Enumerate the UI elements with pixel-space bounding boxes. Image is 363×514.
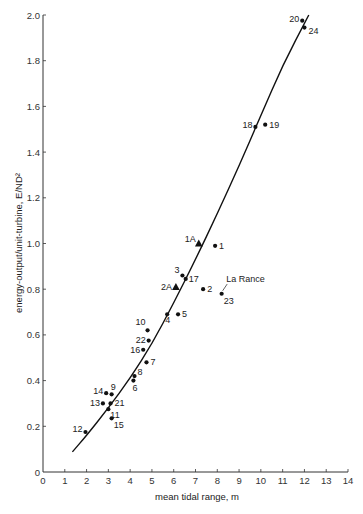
point-label: 19 bbox=[269, 120, 279, 130]
circle-marker-icon bbox=[132, 374, 136, 378]
circle-marker-icon bbox=[184, 277, 188, 281]
point-label: 4 bbox=[165, 315, 170, 325]
point-label: 18 bbox=[242, 120, 252, 130]
y-tick-label: 2.0 bbox=[27, 10, 40, 21]
circle-marker-icon bbox=[180, 273, 184, 277]
point-label: 6 bbox=[132, 383, 137, 393]
point-label: 17 bbox=[189, 274, 199, 284]
point-label: 16 bbox=[130, 345, 140, 355]
data-point-21: 21 bbox=[108, 398, 124, 408]
circle-marker-icon bbox=[145, 328, 149, 332]
circle-marker-icon bbox=[104, 391, 108, 395]
point-label: 5 bbox=[182, 309, 187, 319]
data-point-22: 22 bbox=[136, 335, 151, 345]
data-point-17: 17 bbox=[184, 274, 199, 284]
circle-marker-icon bbox=[144, 360, 148, 364]
annotations: La Rance bbox=[223, 274, 265, 291]
x-tick-label: 2 bbox=[84, 475, 89, 486]
point-label: 13 bbox=[90, 398, 100, 408]
x-tick-label: 8 bbox=[215, 475, 220, 486]
data-point-1: 1 bbox=[213, 241, 224, 251]
data-point-24: 24 bbox=[302, 25, 318, 35]
point-label: 22 bbox=[136, 335, 146, 345]
data-point-19: 19 bbox=[263, 120, 279, 130]
point-label: 2 bbox=[207, 284, 212, 294]
point-label: 24 bbox=[308, 26, 318, 36]
data-point-23: 23 bbox=[220, 292, 234, 306]
triangle-marker-icon bbox=[195, 240, 203, 247]
point-label: 21 bbox=[115, 398, 125, 408]
circle-marker-icon bbox=[263, 123, 267, 127]
circle-marker-icon bbox=[141, 348, 145, 352]
annotation-leader-line bbox=[223, 284, 228, 291]
data-point-12: 12 bbox=[72, 424, 87, 434]
x-tick-label: 0 bbox=[40, 475, 45, 486]
data-point-10: 10 bbox=[136, 317, 150, 332]
x-tick-label: 6 bbox=[171, 475, 176, 486]
circle-marker-icon bbox=[110, 392, 114, 396]
point-label: 3 bbox=[174, 265, 179, 275]
point-label: 7 bbox=[150, 357, 155, 367]
x-tick-label: 4 bbox=[127, 475, 132, 486]
data-point-20: 20 bbox=[289, 14, 304, 24]
point-label: 1A bbox=[185, 234, 196, 244]
data-point-2a: 2A bbox=[161, 282, 180, 292]
point-label: 23 bbox=[224, 296, 234, 306]
x-tick-label: 5 bbox=[149, 475, 154, 486]
point-label: 20 bbox=[289, 14, 299, 24]
triangle-marker-icon bbox=[172, 283, 180, 290]
data-point-4: 4 bbox=[165, 312, 170, 325]
point-label: 1 bbox=[219, 241, 224, 251]
x-tick-label: 3 bbox=[106, 475, 111, 486]
x-tick-label: 1 bbox=[62, 475, 67, 486]
annotation-label: La Rance bbox=[226, 274, 265, 284]
data-point-2: 2 bbox=[201, 284, 212, 294]
data-point-1a: 1A bbox=[185, 234, 203, 247]
circle-marker-icon bbox=[147, 339, 151, 343]
data-points: 1234567891011121314151617181920212223241… bbox=[72, 14, 318, 434]
y-tick-label: 1.2 bbox=[27, 192, 40, 203]
data-point-16: 16 bbox=[130, 345, 145, 355]
y-tick-label: 1.4 bbox=[27, 147, 40, 158]
point-label: 10 bbox=[136, 317, 146, 327]
circle-marker-icon bbox=[213, 244, 217, 248]
point-label: 8 bbox=[138, 367, 143, 377]
x-tick-label: 14 bbox=[343, 475, 354, 486]
y-tick-label: 0.6 bbox=[27, 329, 40, 340]
y-tick-label: 0.4 bbox=[27, 375, 40, 386]
y-tick-label: 1.8 bbox=[27, 55, 40, 66]
chart-canvas: 0123456789101112131400.20.40.60.81.01.21… bbox=[0, 0, 363, 514]
data-point-13: 13 bbox=[90, 398, 105, 408]
y-tick-label: 1.0 bbox=[27, 238, 40, 249]
point-label: 15 bbox=[114, 420, 124, 430]
x-tick-label: 12 bbox=[299, 475, 310, 486]
circle-marker-icon bbox=[253, 125, 257, 129]
circle-marker-icon bbox=[201, 287, 205, 291]
point-label: 14 bbox=[93, 386, 103, 396]
y-tick-label: 0 bbox=[35, 467, 40, 478]
x-axis-title: mean tidal range, m bbox=[155, 491, 239, 502]
data-point-3: 3 bbox=[174, 265, 184, 277]
x-tick-label: 9 bbox=[236, 475, 241, 486]
x-tick-label: 10 bbox=[256, 475, 267, 486]
y-tick-label: 0.8 bbox=[27, 284, 40, 295]
x-tick-label: 13 bbox=[321, 475, 332, 486]
y-tick-label: 1.6 bbox=[27, 101, 40, 112]
x-tick-label: 11 bbox=[278, 475, 288, 486]
data-point-18: 18 bbox=[242, 120, 257, 130]
circle-marker-icon bbox=[83, 430, 87, 434]
point-label: 9 bbox=[111, 382, 116, 392]
data-point-9: 9 bbox=[110, 382, 116, 396]
axes: 0123456789101112131400.20.40.60.81.01.21… bbox=[27, 10, 354, 487]
data-point-7: 7 bbox=[144, 357, 155, 367]
data-point-6: 6 bbox=[131, 379, 137, 393]
data-point-5: 5 bbox=[176, 309, 187, 319]
circle-marker-icon bbox=[101, 401, 105, 405]
point-label: 12 bbox=[72, 424, 82, 434]
circle-marker-icon bbox=[176, 312, 180, 316]
x-tick-label: 7 bbox=[193, 475, 198, 486]
data-point-14: 14 bbox=[93, 386, 108, 396]
circle-marker-icon bbox=[300, 19, 304, 23]
y-axis-title: energy-output/unit-turbine, E/ND² bbox=[13, 173, 24, 313]
circle-marker-icon bbox=[108, 401, 112, 405]
